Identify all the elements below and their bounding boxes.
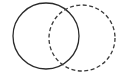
venn-diagram (0, 0, 125, 74)
solid-circle (13, 3, 79, 69)
dashed-circle (49, 5, 115, 71)
